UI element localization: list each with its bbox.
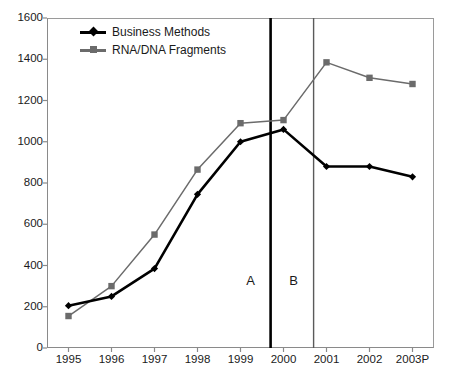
legend-item-rna-dna-fragments: RNA/DNA Fragments — [80, 42, 226, 58]
legend-label-business-methods: Business Methods — [112, 26, 210, 38]
legend-item-business-methods: Business Methods — [80, 24, 226, 40]
y-tick-label: 200 — [2, 301, 43, 313]
chart-screenshot: 02004006008001000120014001600 1995199619… — [0, 0, 455, 391]
y-tick-label: 400 — [2, 260, 43, 272]
x-tick-label: 1995 — [56, 354, 82, 366]
x-tick-label: 1997 — [142, 354, 168, 366]
y-tick-label: 600 — [2, 219, 43, 231]
annotation-label-b: B — [289, 273, 298, 286]
x-tick-label: 1999 — [228, 354, 254, 366]
y-tick-label: 1400 — [2, 54, 43, 66]
y-tick-label: 1200 — [2, 95, 43, 107]
y-tick-label: 0 — [2, 342, 43, 354]
x-tick-label: 1996 — [99, 354, 125, 366]
x-tick-label: 1998 — [185, 354, 211, 366]
legend-marker-diamond-icon — [80, 26, 106, 38]
y-tick-label: 800 — [2, 177, 43, 189]
legend-label-rna-dna-fragments: RNA/DNA Fragments — [112, 44, 226, 56]
legend-marker-square-icon — [80, 44, 106, 56]
x-tick-label: 2003P — [396, 354, 429, 366]
y-tick-label: 1000 — [2, 136, 43, 148]
y-tick-label: 1600 — [2, 12, 43, 24]
x-tick-label: 2002 — [357, 354, 383, 366]
chart-legend: Business Methods RNA/DNA Fragments — [80, 24, 226, 58]
figure-caption — [47, 383, 447, 391]
plot-area — [47, 18, 434, 348]
y-axis-tick-labels: 02004006008001000120014001600 — [0, 0, 43, 391]
x-tick-label: 2001 — [314, 354, 340, 366]
annotation-label-a: A — [246, 273, 255, 286]
x-tick-label: 2000 — [271, 354, 297, 366]
